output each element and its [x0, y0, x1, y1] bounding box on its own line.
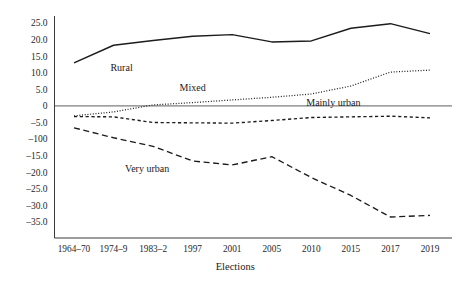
y-axis: 25.020.015.010.05.00–5.0–100–15.0–20.0–2… — [25, 16, 54, 238]
series-label-mainly-urban: Mainly urban — [306, 97, 360, 108]
series-label-group: RuralMixedMainly urbanVery urban — [110, 62, 360, 174]
x-tick-label: 1983–2 — [139, 244, 167, 254]
x-tick-label: 2001 — [223, 244, 242, 254]
series-line-mixed — [74, 70, 430, 116]
y-tick-label: –100 — [28, 134, 48, 144]
y-tick-label: 20.0 — [31, 35, 48, 45]
y-tick-label: –15.0 — [25, 151, 48, 161]
y-tick-label: 10.0 — [31, 68, 48, 78]
x-tick-label: 2015 — [342, 244, 361, 254]
x-axis: 1964–701974–91983–2199720012005201020152… — [55, 238, 453, 254]
y-tick-label: 15.0 — [31, 52, 48, 62]
x-tick-label: 2017 — [381, 244, 400, 254]
y-tick-label: –30.0 — [25, 201, 48, 211]
x-tick-label: 1974–9 — [100, 244, 128, 254]
y-tick-label: –35.0 — [25, 217, 48, 227]
y-tick-group: 25.020.015.010.05.00–5.0–100–15.0–20.0–2… — [25, 18, 48, 227]
x-tick-label: 1964–70 — [58, 244, 91, 254]
y-tick-label: 5.0 — [36, 85, 48, 95]
series-line-mainly-urban — [74, 116, 430, 123]
series-label-rural: Rural — [110, 62, 132, 73]
x-tick-label: 2005 — [262, 244, 281, 254]
series-group — [74, 24, 430, 217]
line-chart: 25.020.015.010.05.00–5.0–100–15.0–20.0–2… — [0, 0, 465, 285]
series-label-very-urban: Very urban — [125, 163, 169, 174]
y-tick-label: –20.0 — [25, 168, 48, 178]
x-tick-label: 2019 — [421, 244, 440, 254]
x-tick-group: 1964–701974–91983–2199720012005201020152… — [58, 244, 440, 254]
chart-container: 25.020.015.010.05.00–5.0–100–15.0–20.0–2… — [0, 0, 465, 285]
series-label-mixed: Mixed — [180, 82, 206, 93]
y-tick-label: –5.0 — [30, 118, 48, 128]
x-tick-label: 2010 — [302, 244, 321, 254]
x-axis-title: Elections — [216, 261, 255, 272]
series-line-rural — [74, 24, 430, 63]
y-tick-label: 25.0 — [31, 18, 48, 28]
y-tick-label: 0 — [43, 101, 48, 111]
x-tick-label: 1997 — [183, 244, 202, 254]
y-tick-label: –25.0 — [25, 184, 48, 194]
